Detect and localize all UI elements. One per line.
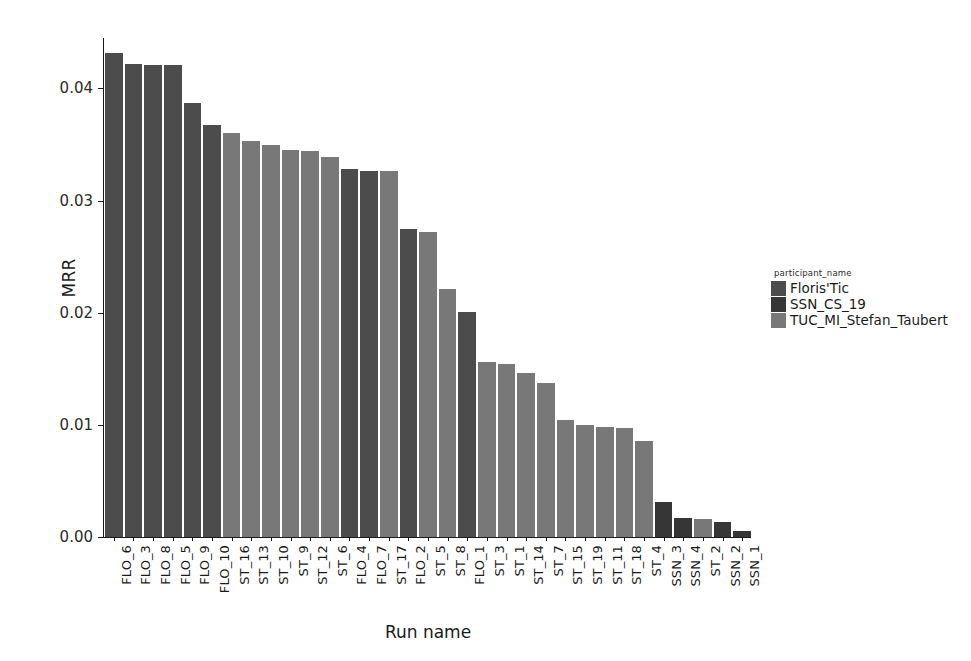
- x-tick-mark: [291, 537, 292, 541]
- x-tick-label: ST_12: [315, 545, 330, 585]
- x-tick-label: FLO_10: [217, 545, 232, 593]
- x-tick-label: FLO_2: [413, 545, 428, 585]
- x-tick-label: ST_17: [394, 545, 409, 585]
- x-tick-mark: [565, 537, 566, 541]
- x-tick-label: FLO_7: [374, 545, 389, 585]
- x-tick-label: SSN_2: [728, 545, 743, 587]
- bar: [557, 420, 575, 537]
- bar: [478, 362, 496, 537]
- legend-entry: TUC_MI_Stefan_Taubert: [771, 312, 961, 328]
- x-tick-mark: [723, 537, 724, 541]
- x-tick-mark: [487, 537, 488, 541]
- x-tick-mark: [153, 537, 154, 541]
- y-tick-label: 0.04: [60, 79, 93, 97]
- bar: [576, 425, 594, 537]
- bar: [439, 289, 457, 537]
- legend-label: Floris'Tic: [790, 281, 849, 296]
- x-tick-mark: [133, 537, 134, 541]
- x-tick-mark: [507, 537, 508, 541]
- bar: [125, 64, 143, 537]
- x-tick-mark: [369, 537, 370, 541]
- bar: [203, 125, 221, 537]
- bar: [400, 229, 418, 537]
- x-tick-mark: [349, 537, 350, 541]
- bar: [655, 502, 673, 537]
- x-tick-mark: [742, 537, 743, 541]
- x-tick-label: ST_10: [276, 545, 291, 585]
- y-axis-ticks: 0.000.010.020.030.04: [0, 0, 103, 661]
- bar: [184, 103, 202, 537]
- x-tick-label: SSN_1: [747, 545, 762, 587]
- x-tick-label: ST_14: [531, 545, 546, 585]
- bar: [458, 312, 476, 537]
- x-tick-mark: [192, 537, 193, 541]
- bar: [282, 150, 300, 537]
- x-tick-mark: [408, 537, 409, 541]
- x-tick-label: FLO_3: [138, 545, 153, 585]
- x-tick-mark: [114, 537, 115, 541]
- y-tick-label: 0.00: [60, 528, 93, 546]
- bar: [498, 364, 516, 537]
- x-tick-mark: [232, 537, 233, 541]
- x-tick-label: FLO_4: [354, 545, 369, 585]
- bar: [694, 519, 712, 537]
- x-axis-ticks: FLO_6FLO_3FLO_8FLO_5FLO_9FLO_10ST_16ST_1…: [104, 537, 752, 661]
- x-tick-label: ST_15: [570, 545, 585, 585]
- x-tick-mark: [428, 537, 429, 541]
- x-tick-label: ST_3: [492, 545, 507, 576]
- x-tick-mark: [683, 537, 684, 541]
- x-tick-label: ST_1: [512, 545, 527, 576]
- bar: [596, 427, 614, 537]
- bar: [714, 522, 732, 537]
- bar: [380, 171, 398, 537]
- bar: [144, 65, 162, 537]
- x-tick-mark: [526, 537, 527, 541]
- x-tick-mark: [644, 537, 645, 541]
- bar: [242, 141, 260, 537]
- bar: [517, 373, 535, 537]
- bar: [537, 383, 555, 537]
- x-tick-mark: [605, 537, 606, 541]
- x-tick-label: ST_16: [237, 545, 252, 585]
- x-tick-label: SSN_4: [688, 545, 703, 587]
- x-tick-mark: [330, 537, 331, 541]
- legend-swatch-icon: [771, 313, 786, 328]
- bar: [341, 169, 359, 537]
- x-tick-label: ST_13: [256, 545, 271, 585]
- bar-chart-figure: MRR 0.000.010.020.030.04 FLO_6FLO_3FLO_8…: [0, 0, 971, 661]
- x-tick-label: FLO_6: [119, 545, 134, 585]
- x-tick-label: ST_6: [335, 545, 350, 576]
- x-tick-mark: [251, 537, 252, 541]
- legend: participant_name Floris'TicSSN_CS_19TUC_…: [771, 268, 961, 328]
- x-tick-label: FLO_5: [178, 545, 193, 585]
- x-tick-mark: [467, 537, 468, 541]
- legend-entries: Floris'TicSSN_CS_19TUC_MI_Stefan_Taubert: [771, 280, 961, 328]
- x-tick-mark: [389, 537, 390, 541]
- x-tick-mark: [703, 537, 704, 541]
- y-tick-label: 0.01: [60, 416, 93, 434]
- plot-area: [104, 38, 752, 537]
- x-tick-mark: [310, 537, 311, 541]
- legend-swatch-icon: [771, 281, 786, 296]
- x-tick-label: ST_18: [629, 545, 644, 585]
- bar: [223, 133, 241, 537]
- legend-label: TUC_MI_Stefan_Taubert: [790, 313, 948, 328]
- legend-entry: SSN_CS_19: [771, 296, 961, 312]
- bar: [105, 53, 123, 537]
- bar: [616, 428, 634, 537]
- legend-swatch-icon: [771, 297, 786, 312]
- bar: [635, 441, 653, 537]
- bar: [419, 232, 437, 537]
- x-tick-mark: [212, 537, 213, 541]
- x-tick-mark: [448, 537, 449, 541]
- x-tick-mark: [173, 537, 174, 541]
- legend-title: participant_name: [774, 268, 961, 278]
- x-tick-mark: [271, 537, 272, 541]
- legend-entry: Floris'Tic: [771, 280, 961, 296]
- x-tick-mark: [585, 537, 586, 541]
- x-tick-label: ST_19: [590, 545, 605, 585]
- x-tick-label: ST_5: [433, 545, 448, 576]
- bar: [301, 151, 319, 537]
- x-axis-title: Run name: [104, 622, 752, 642]
- bar: [262, 145, 280, 537]
